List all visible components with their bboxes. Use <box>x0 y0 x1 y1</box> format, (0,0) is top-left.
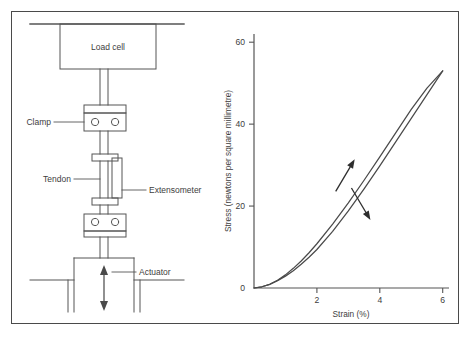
y-axis-label: Stress (newtons per square millimetre) <box>223 90 233 232</box>
lower-clamp-body <box>84 214 126 231</box>
y-tick-label: 40 <box>235 119 245 129</box>
y-tick-label: 20 <box>235 201 245 211</box>
load-cell-label: Load cell <box>91 42 125 52</box>
upper-clamp-bolt-left <box>91 118 98 125</box>
upper-clamp-bolt-right <box>111 118 118 125</box>
actuator-arrow-head-up <box>100 265 108 275</box>
x-tick-label: 6 <box>440 295 445 305</box>
lower-clamp-bolt-left <box>91 218 98 225</box>
actuator-arrow-head-down <box>100 301 108 311</box>
x-axis-ticks: 246 <box>315 288 446 305</box>
tendon-label: Tendon <box>43 174 71 184</box>
loading-arrow-shaft <box>336 165 351 191</box>
y-tick-label: 0 <box>240 283 245 293</box>
x-axis-label: Strain (%) <box>333 309 370 319</box>
x-tick-label: 2 <box>315 295 320 305</box>
curve-unloading <box>254 71 443 288</box>
extensometer-lower-grip <box>92 198 118 205</box>
x-tick-label: 4 <box>377 295 382 305</box>
figure-root: Load cell Clamp Tendon Extensometer Actu… <box>0 0 472 337</box>
stress-strain-chart: 0204060 246 Stress (newtons per square m… <box>217 12 460 323</box>
upper-clamp-cap <box>84 105 126 113</box>
lower-clamp-cap <box>84 231 126 237</box>
chart-curves <box>254 71 443 288</box>
figure-border: Load cell Clamp Tendon Extensometer Actu… <box>11 11 459 324</box>
stress-strain-chart-panel: 0204060 246 Stress (newtons per square m… <box>217 12 460 323</box>
y-tick-label: 60 <box>235 37 245 47</box>
unloading-arrow-head <box>363 211 371 220</box>
extensometer-body <box>112 158 122 198</box>
upper-clamp-body <box>84 113 126 131</box>
chart-axes <box>254 34 449 288</box>
curve-loading <box>254 71 443 288</box>
unloading-arrow-shaft <box>351 188 366 214</box>
chart-direction-arrows <box>336 159 371 220</box>
actuator-label: Actuator <box>139 267 171 277</box>
lower-clamp-bolt-right <box>111 218 118 225</box>
clamp-label: Clamp <box>26 117 51 127</box>
apparatus-svg: Load cell Clamp Tendon Extensometer Actu… <box>12 12 217 323</box>
y-axis-ticks: 0204060 <box>235 37 254 293</box>
extensometer-label: Extensometer <box>149 185 202 195</box>
apparatus-diagram-panel: Load cell Clamp Tendon Extensometer Actu… <box>12 12 217 323</box>
loading-arrow-head <box>347 159 355 168</box>
